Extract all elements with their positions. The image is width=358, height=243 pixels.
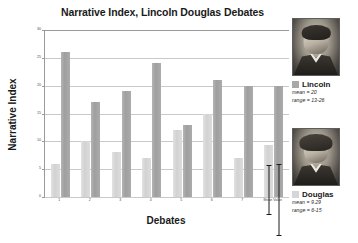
x-tick-label: Mean Value <box>258 199 289 211</box>
bar-lincoln <box>183 125 192 197</box>
legend-swatch-lincoln-icon <box>292 81 299 88</box>
legend-block-douglas: Douglas mean = 9.29 range = 6-15 <box>292 128 354 214</box>
y-tick-label: 0 <box>39 195 41 199</box>
y-tick-mark <box>42 197 45 198</box>
bar-lincoln <box>213 80 222 197</box>
error-bar-douglas <box>268 165 269 215</box>
douglas-portrait-image <box>292 128 340 186</box>
bar-douglas <box>81 141 90 197</box>
y-axis-title: Narrative Index <box>4 34 20 194</box>
x-tick-label: 2 <box>75 199 106 211</box>
bar-douglas <box>234 158 243 197</box>
legend-item-douglas: Douglas <box>292 190 354 199</box>
portrait-hair <box>302 25 331 40</box>
legend-spacer <box>292 104 354 128</box>
bar-group <box>259 30 290 197</box>
bar-group <box>167 30 198 197</box>
bar-groups <box>45 30 289 197</box>
legend-label-douglas: Douglas <box>302 190 334 199</box>
legend-panel: Lincoln mean = 20 range = 13-26 Douglas … <box>292 18 354 230</box>
error-bar-lincoln <box>278 164 279 236</box>
bar-group <box>198 30 229 197</box>
x-axis-title: Debates <box>44 215 288 226</box>
bar-lincoln <box>122 91 131 197</box>
x-tick-label: 7 <box>227 199 258 211</box>
bar-group <box>45 30 76 197</box>
y-tick-label: 20 <box>37 84 41 88</box>
bar-group <box>76 30 107 197</box>
y-axis-title-text: Narrative Index <box>7 78 18 150</box>
bar-lincoln <box>91 102 100 197</box>
bar-douglas <box>142 158 151 197</box>
legend-lincoln-range: range = 13-26 <box>292 97 354 105</box>
chart-title: Narrative Index, Lincoln Douglas Debates <box>40 6 285 18</box>
bar-douglas <box>264 145 273 197</box>
lincoln-portrait-image <box>292 18 340 76</box>
legend-douglas-mean: mean = 9.29 <box>292 199 354 207</box>
plot-area: 051015202530 <box>44 30 289 198</box>
bar-douglas <box>51 164 60 197</box>
x-tick-label: 4 <box>136 199 167 211</box>
bar-lincoln <box>61 52 70 197</box>
y-tick-label: 15 <box>37 112 41 116</box>
legend-block-lincoln: Lincoln mean = 20 range = 13-26 <box>292 18 354 104</box>
legend-douglas-range: range = 6-15 <box>292 207 354 215</box>
x-axis-tick-labels: 1234567Mean Value <box>44 199 288 211</box>
y-tick-label: 5 <box>39 167 41 171</box>
bar-lincoln <box>152 63 161 197</box>
legend-item-lincoln: Lincoln <box>292 80 354 89</box>
legend-label-lincoln: Lincoln <box>302 80 330 89</box>
bar-douglas <box>173 130 182 197</box>
x-tick-label: 5 <box>166 199 197 211</box>
x-tick-label: 3 <box>105 199 136 211</box>
legend-lincoln-mean: mean = 20 <box>292 89 354 97</box>
y-tick-label: 25 <box>37 56 41 60</box>
bar-lincoln <box>274 86 283 197</box>
y-tick-label: 30 <box>37 28 41 32</box>
bar-group <box>137 30 168 197</box>
bar-lincoln <box>244 86 253 197</box>
x-tick-label: 6 <box>197 199 228 211</box>
bar-douglas <box>203 114 212 198</box>
portrait-hair <box>299 134 332 151</box>
bar-group <box>106 30 137 197</box>
bar-douglas <box>112 152 121 197</box>
y-tick-label: 10 <box>37 140 41 144</box>
plot-wrap: 051015202530 <box>44 30 288 197</box>
x-tick-label: 1 <box>44 199 75 211</box>
gridline <box>45 197 289 198</box>
chart-container: Narrative Index, Lincoln Douglas Debates… <box>0 0 358 243</box>
legend-swatch-douglas-icon <box>292 191 299 198</box>
bar-group <box>228 30 259 197</box>
